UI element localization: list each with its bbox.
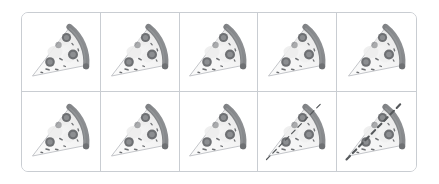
pizza-slice-illustration	[185, 101, 251, 163]
pizza-slice-figure	[107, 21, 173, 83]
pizza-slice-illustration	[344, 101, 410, 163]
pizza-slice-figure	[185, 21, 251, 83]
pizza-slice-figure	[185, 101, 251, 163]
pizza-slice-cell-1	[22, 13, 101, 92]
pizza-slice-cell-6	[22, 92, 101, 171]
pizza-slice-cell-5	[337, 13, 416, 92]
pizza-slice-illustration	[28, 21, 94, 83]
pizza-slice-figure	[344, 21, 410, 83]
pizza-slice-figure	[28, 101, 94, 163]
pizza-slice-illustration	[264, 21, 330, 83]
figure-canvas	[0, 0, 439, 184]
pizza-slice-cell-3	[180, 13, 259, 92]
pizza-slice-figure	[344, 101, 410, 163]
pizza-slice-figure	[264, 21, 330, 83]
pizza-slice-cell-9	[258, 92, 337, 171]
pizza-slice-illustration	[107, 21, 173, 83]
pizza-slice-figure	[28, 21, 94, 83]
pizza-slice-figure	[107, 101, 173, 163]
pizza-slice-illustration	[28, 101, 94, 163]
pizza-slice-cell-8	[180, 92, 259, 171]
pizza-slice-illustration	[185, 21, 251, 83]
pizza-slice-illustration	[107, 101, 173, 163]
pizza-slice-illustration	[344, 21, 410, 83]
pizza-slice-grid	[21, 12, 417, 172]
pizza-slice-cell-4	[258, 13, 337, 92]
pizza-slice-cell-10	[337, 92, 416, 171]
pizza-slice-cell-7	[101, 92, 180, 171]
pizza-slice-cell-2	[101, 13, 180, 92]
pizza-slice-figure	[264, 101, 330, 163]
pizza-slice-illustration	[264, 101, 330, 163]
